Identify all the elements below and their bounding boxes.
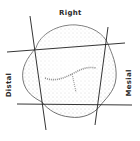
tooth-outline-figure <box>0 0 140 141</box>
tooth-diagram: Right Distal Mesial <box>0 0 140 141</box>
label-mesial: Mesial <box>125 69 133 96</box>
label-right-side: Right <box>59 9 82 17</box>
lower-horizontal-line <box>17 104 132 105</box>
label-distal: Distal <box>5 73 13 98</box>
